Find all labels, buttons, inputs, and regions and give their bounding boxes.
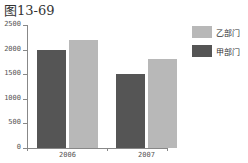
y-tick-label: 0 xyxy=(0,143,21,151)
y-tick xyxy=(23,50,27,51)
y-tick xyxy=(23,74,27,75)
y-tick-label: 1500 xyxy=(0,69,21,77)
x-tick xyxy=(167,148,168,151)
y-tick xyxy=(23,25,27,26)
legend-swatch-jia xyxy=(192,45,212,57)
bar-2006-0 xyxy=(37,50,66,148)
y-tick-label: 2500 xyxy=(0,20,21,28)
legend-label-yi: 乙部门 xyxy=(216,27,240,38)
legend-label-jia: 甲部门 xyxy=(216,46,240,57)
x-tick-label: 2007 xyxy=(127,151,167,159)
y-tick-label: 500 xyxy=(0,118,21,126)
y-axis xyxy=(27,25,28,148)
legend-swatch-yi xyxy=(192,26,212,38)
y-tick xyxy=(23,99,27,100)
bar-2006-1 xyxy=(69,40,98,148)
chart-title: 图13-69 xyxy=(4,0,54,19)
x-tick-label: 2006 xyxy=(48,151,88,159)
y-tick xyxy=(23,123,27,124)
y-tick-label: 1000 xyxy=(0,94,21,102)
x-tick xyxy=(27,148,28,151)
bar-2007-1 xyxy=(148,59,177,148)
y-tick-label: 2000 xyxy=(0,45,21,53)
x-axis xyxy=(27,148,167,149)
bar-2007-0 xyxy=(116,74,145,148)
x-tick xyxy=(107,148,108,151)
